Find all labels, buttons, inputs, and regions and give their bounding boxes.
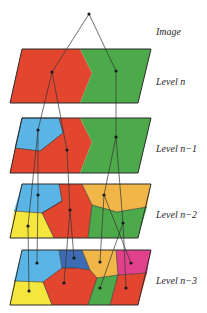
- label-level-n2: Level n−2: [156, 209, 197, 220]
- image-node: [87, 12, 90, 15]
- level-n-plane: [10, 49, 151, 103]
- region-hierarchy-diagram: [0, 0, 207, 313]
- level-n2-plane: [10, 184, 151, 238]
- label-level-n: Level n: [156, 76, 185, 87]
- label-image: Image: [156, 26, 181, 37]
- label-level-n3: Level n−3: [156, 275, 197, 286]
- level-n1-plane: [10, 118, 151, 173]
- label-level-n1: Level n−1: [156, 143, 197, 154]
- level-n3-plane: [10, 250, 151, 305]
